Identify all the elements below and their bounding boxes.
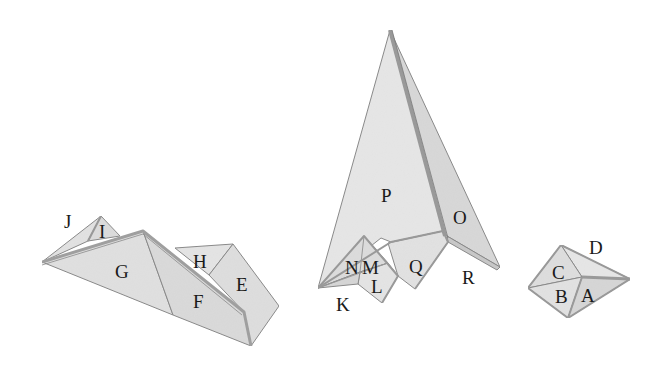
label-G: G: [115, 261, 129, 282]
label-H: H: [193, 251, 207, 272]
label-E: E: [236, 274, 248, 295]
label-Q: Q: [409, 256, 423, 277]
label-R: R: [462, 267, 475, 288]
label-D: D: [589, 237, 603, 258]
rim-a-d: [582, 277, 630, 279]
label-N: N: [345, 257, 359, 278]
label-K: K: [336, 294, 350, 315]
label-L: L: [371, 276, 383, 297]
label-B: B: [555, 286, 568, 307]
label-O: O: [453, 207, 467, 228]
label-C: C: [552, 262, 565, 283]
label-M: M: [362, 257, 379, 278]
right-small-shape: [528, 245, 630, 318]
label-P: P: [381, 185, 392, 206]
label-I: I: [99, 221, 105, 242]
label-F: F: [193, 291, 204, 312]
folded-shapes-diagram: J I G H F E P O Q R N M L K D C B A: [0, 0, 662, 371]
label-J: J: [64, 211, 71, 232]
label-A: A: [581, 285, 595, 306]
